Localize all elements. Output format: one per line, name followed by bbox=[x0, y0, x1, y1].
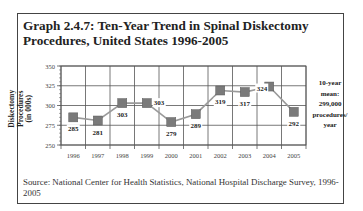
mean-line-1: 10-year bbox=[305, 78, 355, 89]
mean-line-2: mean: bbox=[305, 89, 355, 100]
svg-text:324: 324 bbox=[257, 85, 268, 93]
axes bbox=[57, 66, 306, 149]
svg-text:2004: 2004 bbox=[263, 152, 277, 159]
svg-text:281: 281 bbox=[93, 129, 104, 137]
mean-line-3: 299,000 bbox=[305, 99, 355, 110]
svg-text:2005: 2005 bbox=[287, 152, 300, 159]
svg-text:2003: 2003 bbox=[238, 152, 251, 159]
svg-text:303: 303 bbox=[154, 99, 165, 107]
svg-text:289: 289 bbox=[191, 122, 202, 130]
svg-text:2002: 2002 bbox=[214, 152, 227, 159]
svg-text:1996: 1996 bbox=[67, 152, 81, 159]
svg-text:1998: 1998 bbox=[116, 152, 129, 159]
mean-line-4: procedures/ bbox=[305, 110, 355, 121]
svg-text:279: 279 bbox=[166, 130, 177, 138]
svg-text:317: 317 bbox=[240, 100, 251, 108]
svg-text:2001: 2001 bbox=[189, 152, 202, 159]
mean-line-5: year bbox=[305, 120, 355, 131]
svg-text:292: 292 bbox=[289, 120, 300, 128]
svg-text:319: 319 bbox=[215, 98, 226, 106]
svg-text:250: 250 bbox=[45, 142, 55, 149]
svg-text:325: 325 bbox=[45, 82, 55, 89]
svg-text:2000: 2000 bbox=[165, 152, 178, 159]
svg-text:303: 303 bbox=[117, 111, 128, 119]
svg-text:300: 300 bbox=[45, 102, 55, 109]
svg-text:285: 285 bbox=[68, 125, 79, 133]
svg-text:1997: 1997 bbox=[91, 152, 105, 159]
mean-annotation: 10-year mean: 299,000 procedures/ year bbox=[305, 78, 355, 131]
tick-labels: 2502753003253501996199719981999200020012… bbox=[45, 63, 300, 160]
svg-text:1999: 1999 bbox=[140, 152, 153, 159]
source-note: Source: National Center for Health Stati… bbox=[23, 177, 343, 199]
svg-text:350: 350 bbox=[45, 63, 55, 70]
svg-text:275: 275 bbox=[45, 122, 55, 129]
